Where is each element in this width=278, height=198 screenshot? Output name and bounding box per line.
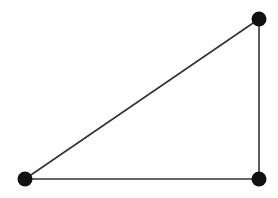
node-B xyxy=(18,172,33,187)
node-C xyxy=(252,172,267,187)
node-A xyxy=(252,12,267,27)
edges-group xyxy=(25,19,259,179)
triangle-graph-diagram xyxy=(0,0,278,198)
edge-A-B xyxy=(25,19,259,179)
